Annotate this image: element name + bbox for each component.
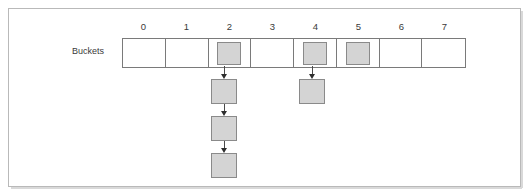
chain-node-b2-2 [211, 116, 237, 141]
column-header-0: 0 [122, 21, 165, 33]
figure-frame-shadow-right [521, 11, 523, 188]
bucket-cell-6[interactable] [380, 39, 423, 67]
figure-frame [8, 8, 521, 187]
bucket-cell-4[interactable] [294, 39, 337, 67]
hash-table-chaining-diagram: Buckets 0 1 2 3 4 5 6 7 [0, 0, 530, 196]
column-header-3: 3 [251, 21, 294, 33]
chain-node-b2-3 [211, 153, 237, 178]
bucket-cell-1[interactable] [166, 39, 209, 67]
bucket-array [122, 38, 466, 68]
chain-node-b2-1 [211, 79, 237, 104]
column-header-2: 2 [208, 21, 251, 33]
bucket-cell-7[interactable] [422, 39, 465, 67]
bucket-cell-2[interactable] [209, 39, 252, 67]
bucket-node-2 [217, 42, 241, 65]
figure-frame-shadow-bottom [11, 187, 522, 189]
bucket-cell-3[interactable] [251, 39, 294, 67]
column-header-7: 7 [423, 21, 466, 33]
buckets-row-label: Buckets [72, 45, 118, 57]
chain-node-b4-1 [299, 79, 325, 104]
bucket-cell-0[interactable] [123, 39, 166, 67]
column-header-5: 5 [337, 21, 380, 33]
column-header-6: 6 [380, 21, 423, 33]
bucket-node-4 [303, 42, 327, 65]
column-header-1: 1 [165, 21, 208, 33]
column-header-4: 4 [294, 21, 337, 33]
bucket-cell-5[interactable] [337, 39, 380, 67]
bucket-node-5 [346, 42, 370, 65]
